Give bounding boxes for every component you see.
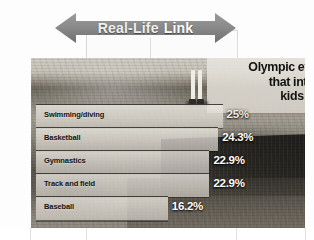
chart-title: Olympic events that interest kids most [217,60,305,104]
bar-chart: Swimming/diving 25% Basketball 24.3% Gym… [36,104,305,222]
person-silhouette-icon [186,62,208,106]
table-row: Swimming/diving 25% [36,104,223,127]
chart-title-line-3: kids most [217,89,305,104]
screenshot-root: Real-Life Link Olympic events that inter… [0,0,314,240]
table-row: Track and field 22.9% [36,173,209,196]
page-bottom-strip [0,228,314,240]
bar-value-basketball: 24.3% [222,131,253,143]
bar-label-swimming-diving: Swimming/diving [44,110,104,119]
banner-text-secondary: Link [164,20,194,36]
banner-text-primary: Real-Life [98,20,159,36]
banner-text: Real-Life Link [55,11,236,45]
bar-value-gymnastics: 22.9% [213,154,244,166]
table-row: Baseball 16.2% [36,196,168,219]
bar-label-track-and-field: Track and field [44,179,95,188]
chart-title-line-1: Olympic events [217,60,305,75]
real-life-link-banner: Real-Life Link [55,11,236,45]
bar-label-gymnastics: Gymnastics [44,156,86,165]
bar-value-baseball: 16.2% [172,200,203,212]
chart-photo-panel: Olympic events that interest kids most S… [31,58,305,228]
chart-title-line-2: that interest [217,75,305,90]
bar-label-basketball: Basketball [44,133,81,142]
bar-value-track-and-field: 22.9% [213,177,244,189]
table-row: Gymnastics 22.9% [36,150,209,173]
table-row: Basketball 24.3% [36,127,218,150]
bar-label-baseball: Baseball [44,202,74,211]
bar-value-swimming-diving: 25% [227,108,249,120]
